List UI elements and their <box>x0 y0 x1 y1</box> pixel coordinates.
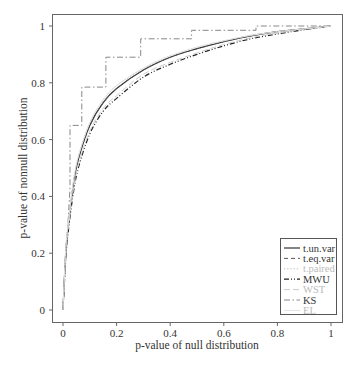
x-tick-label: 0.8 <box>271 327 285 339</box>
y-tick-label: 1 <box>40 20 46 32</box>
roc-like-chart: 00.20.40.60.81 00.20.40.60.81 p-value of… <box>0 0 358 367</box>
legend-label: KS <box>303 295 317 306</box>
x-tick-label: 0.4 <box>163 327 177 339</box>
legend-label: t.un.var <box>303 243 336 254</box>
y-tick-label: 0.2 <box>31 247 45 259</box>
x-tick-label: 0 <box>60 327 66 339</box>
x-axis-title: p-value of null distribution <box>135 339 259 352</box>
y-tick-label: 0.4 <box>31 190 45 202</box>
legend-label: t.eq.var <box>303 253 335 264</box>
y-tick-label: 0.6 <box>31 134 45 146</box>
legend-label: WST <box>303 284 326 295</box>
y-tick-label: 0 <box>40 304 46 316</box>
legend-label: EL <box>303 305 316 316</box>
y-axis: 00.20.40.60.81 <box>31 20 52 316</box>
legend: t.un.vart.eq.vart.pairedMWUWSTKSEL <box>281 239 337 316</box>
x-tick-label: 1 <box>328 327 334 339</box>
x-axis: 00.20.40.60.81 <box>60 323 334 340</box>
y-tick-label: 0.8 <box>31 77 45 89</box>
y-axis-title: p-value of nonnull distribution <box>17 97 30 238</box>
x-tick-label: 0.6 <box>217 327 231 339</box>
x-tick-label: 0.2 <box>110 327 124 339</box>
legend-label: t.paired <box>303 263 336 274</box>
legend-label: MWU <box>303 274 330 285</box>
